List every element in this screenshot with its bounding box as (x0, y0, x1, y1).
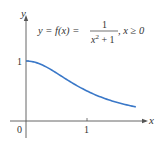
curve-f-of-x (26, 61, 136, 107)
x-tick-label-1: 1 (84, 124, 89, 135)
x-axis-arrow-icon (142, 119, 148, 123)
denominator-rest: + 1 (99, 34, 115, 45)
function-graph: y x 0 1 1 y = f(x) = 1 x2 + 1 , x ≥ 0 (0, 0, 165, 145)
y-tick-label-1: 1 (17, 56, 22, 67)
equation-label: y = f(x) = 1 x2 + 1 , x ≥ 0 (37, 19, 145, 45)
origin-label: 0 (17, 124, 22, 135)
y-axis-label: y (20, 7, 26, 19)
x-axis-label: x (148, 114, 154, 126)
equation-lhs: y = f(x) = (37, 25, 79, 37)
equation-numerator: 1 (102, 19, 107, 30)
equation-denominator: x2 + 1 (90, 33, 115, 45)
equation-condition: , x ≥ 0 (118, 25, 145, 36)
